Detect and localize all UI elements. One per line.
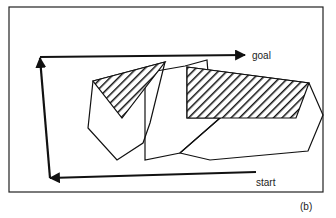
hatched-region-left [93,62,165,118]
path-left-segment [40,58,50,178]
start-label: start [256,177,276,188]
path-bottom-segment [50,172,256,178]
path-top-segment [40,55,245,57]
panel-label: (b) [300,201,312,212]
goal-label: goal [252,50,271,61]
diagram-canvas: goal start (b) [0,0,336,218]
hatched-region-right [187,67,309,118]
